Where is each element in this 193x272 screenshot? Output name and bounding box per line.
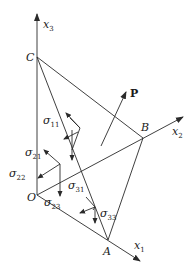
sigma22-arrow <box>38 164 60 178</box>
x1-label: x1 <box>134 239 145 254</box>
sigma31-arrow <box>80 207 95 213</box>
point-c-label: C <box>26 51 35 64</box>
sigma21-arrow <box>44 150 60 164</box>
sigma11-arrow <box>66 113 80 128</box>
x3-label: x3 <box>43 18 54 33</box>
sigma31-label: σ31 <box>68 179 84 194</box>
sigma33-label: σ33 <box>100 207 116 222</box>
x2-label: x2 <box>172 125 183 140</box>
sigma22-label: σ22 <box>9 167 25 182</box>
p-vector-label: P <box>130 87 138 100</box>
edge-BA <box>108 138 143 240</box>
point-a-label: A <box>102 245 111 258</box>
point-b-label: B <box>140 121 149 134</box>
p-vector-arrow <box>101 92 126 146</box>
sigma23-label: σ23 <box>44 196 60 211</box>
point-o-label: O <box>27 191 36 204</box>
tetrahedron-diagram: x3 x2 x1 C B A O P σ11 σ21 σ22 σ23 σ31 σ… <box>0 0 193 272</box>
sigma11-label: σ11 <box>43 114 59 129</box>
sigma21-label: σ21 <box>25 146 41 161</box>
